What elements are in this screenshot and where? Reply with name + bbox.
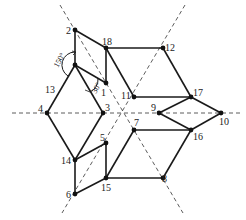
label-4: 4 xyxy=(38,103,43,114)
label-11: 11 xyxy=(121,90,131,101)
node-11 xyxy=(132,95,137,100)
label-15: 15 xyxy=(101,182,111,193)
label-13: 13 xyxy=(45,84,55,95)
label-3: 3 xyxy=(105,102,110,113)
label-18: 18 xyxy=(102,36,112,47)
label-12: 12 xyxy=(165,42,175,53)
node-9 xyxy=(157,111,162,116)
edge-9-16 xyxy=(159,113,191,130)
node-6 xyxy=(73,192,78,197)
label-16: 16 xyxy=(193,131,203,142)
node-15 xyxy=(104,176,109,181)
label-10: 10 xyxy=(219,116,229,127)
edge-7-15 xyxy=(106,130,134,178)
edge-17-10 xyxy=(191,97,221,113)
node-2 xyxy=(73,28,78,33)
node-4 xyxy=(45,111,50,116)
label-9: 9 xyxy=(151,102,156,113)
edge-17-9 xyxy=(159,97,191,113)
symmetry-diagram: 1 2 3 4 5 6 7 8 9 10 11 12 13 14 15 16 1… xyxy=(0,0,246,220)
angle-label-150: 150° xyxy=(52,51,67,69)
label-14: 14 xyxy=(61,155,71,166)
node-10 xyxy=(219,111,224,116)
node-center xyxy=(73,63,78,68)
edge-4-14 xyxy=(47,113,75,160)
label-5: 5 xyxy=(100,132,105,143)
label-6: 6 xyxy=(66,189,71,200)
node-1 xyxy=(104,81,109,86)
label-1: 1 xyxy=(101,87,106,98)
edge-12-17 xyxy=(163,48,191,97)
edge-10-16 xyxy=(191,113,221,130)
label-2: 2 xyxy=(66,25,71,36)
label-7: 7 xyxy=(134,117,139,128)
node-labels: 1 2 3 4 5 6 7 8 9 10 11 12 13 14 15 16 1… xyxy=(38,25,229,200)
node-7 xyxy=(132,128,137,133)
label-8: 8 xyxy=(162,173,167,184)
edge-16-8 xyxy=(163,130,191,178)
label-17: 17 xyxy=(193,87,203,98)
node-14 xyxy=(73,158,78,163)
